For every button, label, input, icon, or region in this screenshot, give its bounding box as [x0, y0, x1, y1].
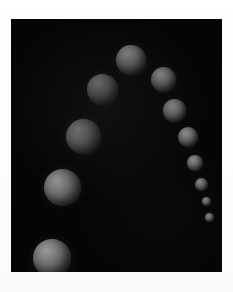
sphere-glow: [203, 211, 214, 222]
sphere-body: [116, 45, 146, 75]
sphere-glow: [193, 176, 209, 192]
sphere-body: [195, 178, 208, 191]
sphere-body: [66, 119, 101, 154]
sphere-body: [87, 74, 118, 105]
sphere-marker: [187, 155, 203, 171]
sphere-glow: [200, 195, 211, 206]
sphere-body: [33, 239, 71, 272]
sphere-glow: [28, 234, 75, 272]
sphere-body: [202, 197, 211, 206]
sphere-body: [178, 127, 198, 147]
sphere-glow: [185, 153, 205, 173]
sphere-body: [44, 169, 81, 206]
sphere-body: [187, 155, 203, 171]
scan-grain-overlay: [11, 19, 222, 272]
sphere-marker: [178, 127, 198, 147]
sphere-marker: [163, 99, 186, 122]
sphere-glow: [61, 114, 104, 157]
figure-root: [0, 0, 233, 292]
sphere-marker: [33, 239, 71, 272]
sphere-marker: [195, 178, 208, 191]
sphere-marker: [151, 67, 176, 92]
sphere-body: [205, 213, 214, 222]
sphere-marker: [116, 45, 146, 75]
sphere-marker: [66, 119, 101, 154]
sphere-marker: [44, 169, 81, 206]
caption-layer: [0, 272, 233, 292]
render-canvas: [11, 19, 222, 272]
sphere-body: [151, 67, 176, 92]
sphere-glow: [83, 70, 121, 108]
sphere-marker: [205, 213, 214, 222]
sphere-glow: [112, 41, 149, 78]
sphere-body: [163, 99, 186, 122]
sphere-glow: [176, 125, 201, 150]
sphere-glow: [160, 96, 189, 125]
sphere-glow: [39, 164, 85, 210]
sphere-marker: [87, 74, 118, 105]
sphere-marker: [202, 197, 211, 206]
sphere-glow: [148, 64, 179, 95]
